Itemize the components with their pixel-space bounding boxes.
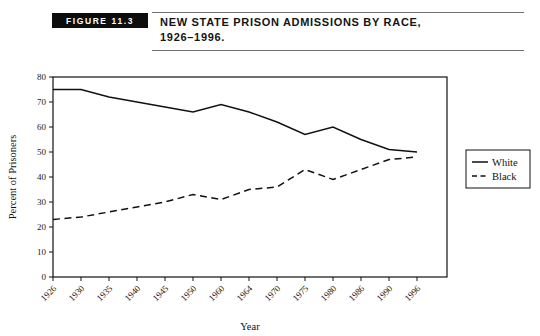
x-tick-label-1926: 1926: [39, 283, 59, 303]
x-tick-label-1950: 1950: [179, 283, 199, 303]
y-tick-label-30: 30: [37, 197, 47, 207]
chart-legend: White Black: [466, 150, 530, 188]
plot-frame: [53, 77, 447, 277]
y-tick-label-0: 0: [42, 272, 47, 282]
x-tick-label-1935: 1935: [95, 283, 115, 303]
x-tick-label-1990: 1990: [375, 283, 395, 303]
x-tick-label-1986: 1986: [347, 283, 367, 303]
figure-title-line-1: NEW STATE PRISON ADMISSIONS BY RACE,: [160, 15, 520, 30]
figure-header: FIGURE 11.3 NEW STATE PRISON ADMISSIONS …: [0, 0, 540, 58]
legend-label-black: Black: [492, 171, 517, 182]
chart-area: 01020304050607080 1926193019351940194519…: [0, 58, 540, 336]
x-tick-label-1980: 1980: [319, 283, 339, 303]
x-tick-label-1964: 1964: [235, 283, 255, 303]
legend-label-white: White: [492, 157, 518, 168]
y-tick-label-70: 70: [37, 97, 47, 107]
line-chart: 01020304050607080 1926193019351940194519…: [0, 58, 540, 336]
x-tick-label-1996: 1996: [403, 283, 423, 303]
y-axis-title: Percent of Prisoners: [7, 135, 18, 220]
x-axis-ticks: 1926193019351940194519501960196419701975…: [39, 277, 423, 303]
series-line-black: [53, 157, 417, 220]
x-tick-label-1930: 1930: [67, 283, 87, 303]
y-tick-label-20: 20: [37, 222, 47, 232]
y-tick-label-40: 40: [37, 172, 47, 182]
y-tick-label-80: 80: [37, 72, 47, 82]
y-tick-label-50: 50: [37, 147, 47, 157]
y-axis-ticks: 01020304050607080: [37, 72, 53, 282]
x-tick-label-1975: 1975: [291, 283, 311, 303]
y-tick-label-60: 60: [37, 122, 47, 132]
x-tick-label-1960: 1960: [207, 283, 227, 303]
x-tick-label-1940: 1940: [123, 283, 143, 303]
figure-number-badge: FIGURE 11.3: [52, 13, 148, 28]
x-tick-label-1970: 1970: [263, 283, 283, 303]
series-line-white: [53, 90, 417, 153]
figure-title-line-2: 1926–1996.: [160, 30, 520, 45]
x-axis-title: Year: [240, 321, 260, 332]
header-rule-top: [152, 12, 524, 13]
y-tick-label-10: 10: [37, 247, 47, 257]
figure-title: NEW STATE PRISON ADMISSIONS BY RACE, 192…: [160, 15, 520, 45]
x-tick-label-1945: 1945: [151, 283, 171, 303]
header-rule-bottom: [152, 50, 524, 51]
